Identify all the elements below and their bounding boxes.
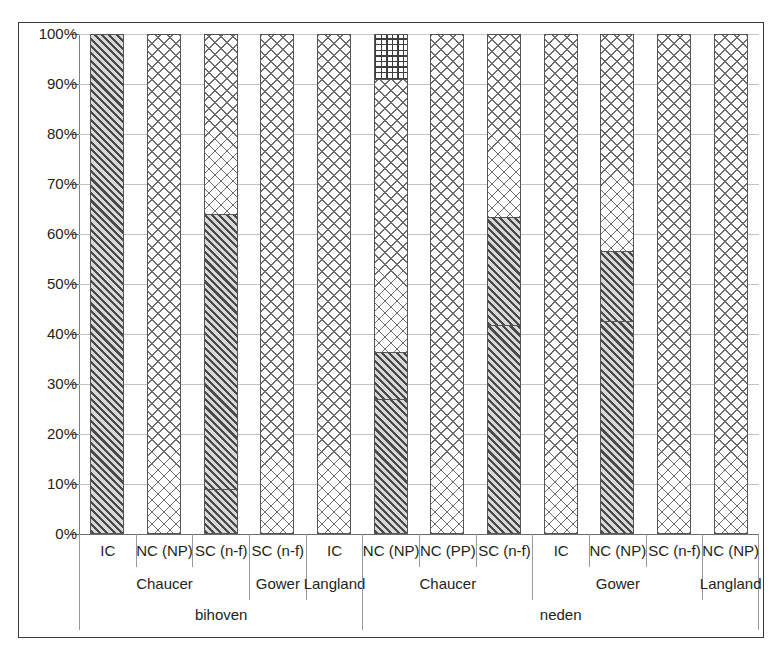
category-label: NC (NP)	[362, 534, 419, 567]
bar	[90, 34, 124, 534]
verb-label: neden	[362, 600, 759, 630]
bar-segment-cross-hatch	[714, 34, 748, 534]
bar	[260, 34, 294, 534]
bar	[147, 34, 181, 534]
bar-segment-cross-hatch	[487, 34, 521, 217]
y-axis-label: 20%	[7, 426, 77, 441]
bar-segment-diagonal-hatch	[374, 352, 408, 399]
author-label: Chaucer	[362, 567, 532, 600]
bar-segment-cross-hatch	[317, 34, 351, 534]
plot-area: 100%90%80%70%60%50%40%30%20%10%0%	[79, 34, 759, 534]
bar	[544, 34, 578, 534]
bar	[487, 34, 521, 534]
category-label: SC (n-f)	[249, 534, 306, 567]
bar	[374, 34, 408, 534]
bar	[714, 34, 748, 534]
verb-label: bihoven	[79, 600, 362, 630]
bar-segment-cross-hatch	[260, 34, 294, 534]
bar-segment-cross-hatch	[374, 79, 408, 352]
category-label: SC (n-f)	[476, 534, 533, 567]
bar-segment-fine-grid	[374, 34, 408, 79]
author-row: ChaucerGowerLanglandChaucerGowerLangland	[79, 567, 759, 600]
category-label: SC (n-f)	[646, 534, 703, 567]
bar-segment-diagonal-hatch	[487, 217, 521, 325]
y-axis-label: 70%	[7, 176, 77, 191]
author-label: Langland	[702, 567, 759, 600]
bar	[430, 34, 464, 534]
y-axis-label: 60%	[7, 226, 77, 241]
bar-segment-cross-hatch	[204, 34, 238, 214]
bar-segment-cross-hatch	[147, 34, 181, 534]
category-label: IC	[532, 534, 589, 567]
y-axis-label: 10%	[7, 476, 77, 491]
y-axis-label: 0%	[7, 526, 77, 541]
bar	[600, 34, 634, 534]
y-axis-label: 80%	[7, 126, 77, 141]
author-label: Gower	[249, 567, 306, 600]
bar-segment-cross-hatch	[600, 34, 634, 251]
y-axis-label: 40%	[7, 326, 77, 341]
bar-segment-diagonal-hatch	[487, 325, 521, 534]
bar-segment-diagonal-hatch	[600, 251, 634, 321]
bar-segment-diagonal-hatch	[90, 34, 124, 534]
bar-segment-cross-hatch	[430, 34, 464, 534]
bar-segment-cross-hatch	[657, 34, 691, 534]
y-axis-label: 100%	[7, 26, 77, 41]
category-label: IC	[79, 534, 136, 567]
x-axis-labels: ICNC (NP)SC (n-f)SC (n-f)ICNC (NP)NC (PP…	[79, 534, 759, 630]
author-label: Gower	[532, 567, 702, 600]
author-label: Langland	[306, 567, 363, 600]
category-label: SC (n-f)	[192, 534, 249, 567]
y-axis-label: 90%	[7, 76, 77, 91]
category-label: NC (NP)	[589, 534, 646, 567]
chart-frame: 100%90%80%70%60%50%40%30%20%10%0% ICNC (…	[18, 22, 764, 638]
bar	[204, 34, 238, 534]
y-axis-label: 50%	[7, 276, 77, 291]
category-row: ICNC (NP)SC (n-f)SC (n-f)ICNC (NP)NC (PP…	[79, 534, 759, 567]
category-label: NC (NP)	[702, 534, 759, 567]
bar-segment-diagonal-hatch	[204, 489, 238, 534]
author-label: Chaucer	[79, 567, 249, 600]
bar-segment-cross-hatch	[544, 34, 578, 534]
category-label: NC (PP)	[419, 534, 476, 567]
y-axis-label: 30%	[7, 376, 77, 391]
category-label: NC (NP)	[136, 534, 193, 567]
bar-segment-diagonal-hatch	[374, 399, 408, 534]
bar-segment-diagonal-hatch	[204, 214, 238, 489]
category-label: IC	[306, 534, 363, 567]
bar-segment-diagonal-hatch	[600, 321, 634, 534]
verb-row: bihovenneden	[79, 600, 759, 630]
bar	[317, 34, 351, 534]
bar	[657, 34, 691, 534]
